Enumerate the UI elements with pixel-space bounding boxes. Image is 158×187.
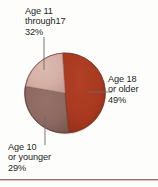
label-teen-percent: 32% [25,27,65,37]
label-teen-line-1: Age 11 [25,6,65,16]
label-adult-line-2: or older [108,84,138,94]
bottom-rule-soft [0,180,158,181]
pie-slice-age-18-or-older[interactable] [62,53,105,133]
label-child-line-1: Age 10 [8,142,51,152]
label-child-line-2: or younger [8,152,51,162]
label-child-percent: 29% [8,163,51,173]
label-age-18-or-older: Age 18 or older 49% [108,74,138,105]
pie-slice-age-10-or-younger[interactable] [25,86,69,133]
label-age-11-through-17: Age 11 through17 32% [25,6,65,37]
label-adult-line-1: Age 18 [108,74,138,84]
pie-chart-figure: Age 11 through17 32% Age 18 or older 49%… [0,0,158,187]
label-adult-percent: 49% [108,95,138,105]
label-age-10-or-younger: Age 10 or younger 29% [8,142,51,173]
label-teen-line-2: through17 [25,16,65,26]
pie-slice-age-11-through-17[interactable] [25,53,65,93]
